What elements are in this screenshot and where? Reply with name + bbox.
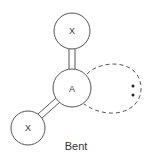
atom-label: X — [69, 26, 75, 36]
geometry-caption: Bent — [0, 140, 148, 152]
double-bond-top — [69, 49, 75, 69]
lone-pair-lobe — [84, 64, 141, 113]
lone-pair-electron-2 — [132, 94, 135, 97]
atom-label: X — [25, 123, 31, 133]
atom-label: A — [69, 84, 75, 94]
double-bond-bottom-left — [38, 98, 60, 118]
vsepr-bent-diagram: X A X Bent — [0, 0, 148, 160]
atom-a-central: A — [53, 69, 91, 107]
lone-pair-electron-1 — [132, 85, 135, 88]
atom-x-top: X — [54, 13, 90, 49]
